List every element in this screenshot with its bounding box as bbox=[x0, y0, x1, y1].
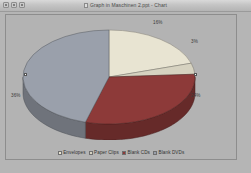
legend-item[interactable]: Paper Clips bbox=[89, 150, 119, 156]
chart-legend[interactable]: EnvelopesPaper ClipsBlank CDsBlank DVDs bbox=[6, 150, 236, 156]
legend-item[interactable]: Envelopes bbox=[58, 150, 86, 156]
pie-chart-svg bbox=[6, 15, 237, 140]
chart-plot-area[interactable]: 16% 3% 24% 36% EnvelopesPaper ClipsBlank… bbox=[5, 14, 237, 160]
document-icon bbox=[84, 3, 88, 8]
chart-window: Graph in Maschinen 2.ppt - Chart 16% 3% … bbox=[0, 0, 251, 173]
legend-item[interactable]: Blank DVDs bbox=[153, 150, 184, 156]
selection-handle[interactable] bbox=[24, 73, 27, 76]
legend-label: Blank DVDs bbox=[159, 150, 185, 156]
legend-swatch bbox=[58, 151, 62, 155]
pie-label-envelopes: 16% bbox=[153, 20, 163, 26]
legend-swatch bbox=[89, 151, 93, 155]
window-titlebar[interactable]: Graph in Maschinen 2.ppt - Chart bbox=[0, 0, 251, 12]
legend-label: Envelopes bbox=[63, 150, 85, 156]
legend-swatch bbox=[122, 151, 126, 155]
window-title-text: Graph in Maschinen 2.ppt - Chart bbox=[90, 1, 167, 9]
legend-swatch bbox=[153, 151, 157, 155]
legend-label: Blank CDs bbox=[127, 150, 150, 156]
selection-handle[interactable] bbox=[194, 73, 197, 76]
pie-label-blank-dvds: 36% bbox=[11, 93, 21, 99]
legend-label: Paper Clips bbox=[94, 150, 119, 156]
window-title: Graph in Maschinen 2.ppt - Chart bbox=[0, 1, 251, 9]
legend-item[interactable]: Blank CDs bbox=[122, 150, 150, 156]
pie-top-layer bbox=[23, 30, 195, 124]
pie-label-paper-clips: 3% bbox=[191, 39, 198, 45]
pie-chart[interactable] bbox=[6, 15, 237, 140]
pie-label-blank-cds: 24% bbox=[191, 93, 201, 99]
